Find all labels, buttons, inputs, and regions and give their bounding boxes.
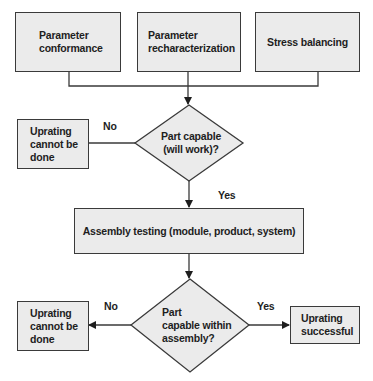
box-stress-balancing: Stress balancing — [255, 12, 360, 72]
box-label: Stress balancing — [267, 36, 348, 49]
box-assembly-testing: Assembly testing (module, product, syste… — [74, 208, 304, 254]
box-label: done — [30, 151, 78, 164]
decision-label: Part capable — [160, 130, 222, 143]
box-label: Uprating — [301, 312, 353, 325]
box-parameter-recharacterization: Parameter recharacterization — [137, 12, 241, 72]
box-label: Uprating — [30, 307, 78, 320]
edge-label-d2-no: No — [104, 300, 118, 312]
box-label: Parameter — [39, 29, 103, 42]
box-label: Uprating — [30, 125, 78, 138]
connector-top-merge — [69, 72, 318, 86]
decision-label: capable within — [162, 319, 242, 332]
box-label: done — [30, 333, 78, 346]
decision2-text: Part capable within assembly? — [162, 306, 242, 345]
edge-label-d1-yes: Yes — [218, 189, 236, 201]
decision-label: Part — [162, 306, 242, 319]
decision1-text: Part capable (will work)? — [160, 130, 222, 156]
box-uprating-fail-2: Uprating cannot be done — [17, 301, 89, 351]
box-label: successful — [301, 325, 353, 338]
decision-label: assembly? — [162, 332, 242, 345]
box-parameter-conformance: Parameter conformance — [15, 12, 121, 72]
box-uprating-fail-1: Uprating cannot be done — [17, 119, 89, 169]
box-label: Assembly testing (module, product, syste… — [83, 225, 296, 238]
box-label: Parameter — [148, 29, 235, 42]
box-uprating-successful: Uprating successful — [290, 306, 360, 344]
box-label: cannot be — [30, 138, 78, 151]
box-label: conformance — [39, 42, 103, 55]
edge-label-d1-no: No — [103, 120, 117, 132]
box-label: cannot be — [30, 320, 78, 333]
box-label: recharacterization — [148, 42, 235, 55]
edge-label-d2-yes: Yes — [257, 300, 275, 312]
decision-label: (will work)? — [160, 143, 222, 156]
